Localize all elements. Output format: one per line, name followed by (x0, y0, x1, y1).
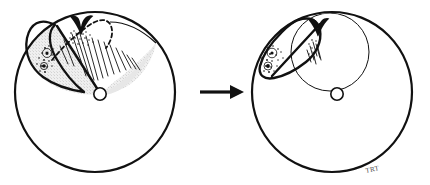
figure-svg: TRT (0, 0, 430, 185)
transition-arrow (200, 85, 244, 99)
signature-label: TRT (365, 164, 381, 175)
node-after (331, 88, 343, 100)
thin-circle-after (291, 13, 369, 91)
panel-before (15, 12, 175, 172)
node-before (94, 88, 106, 100)
panel-after: TRT (252, 12, 412, 175)
diagram-canvas: Before and after schematic of a circular… (0, 0, 430, 185)
